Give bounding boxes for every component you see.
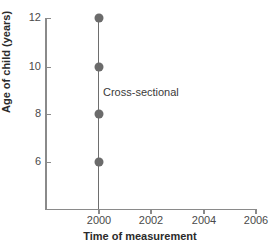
x-axis-tick-label-2004: 2004 (192, 215, 216, 226)
data-point-age-10 (94, 63, 103, 72)
x-axis-tick-label-2006: 2006 (244, 215, 268, 226)
y-axis-tick-label-6: 6 (35, 156, 41, 167)
data-point-age-6 (94, 158, 103, 167)
data-point-age-8 (94, 110, 103, 119)
y-axis-tick-label-8: 8 (35, 108, 41, 119)
annotation-cross-sectional: Cross-sectional (103, 86, 179, 98)
y-axis-tick-label-10: 10 (29, 61, 41, 72)
y-axis-tick-8 (46, 114, 51, 116)
y-axis-title: Age of child (years) (0, 11, 12, 113)
data-point-age-12 (94, 14, 103, 23)
y-axis-tick-label-12: 12 (29, 12, 41, 23)
x-axis-tick-label-2000: 2000 (87, 215, 111, 226)
x-axis-title: Time of measurement (0, 230, 280, 242)
y-axis-tick-12 (46, 18, 51, 20)
y-axis-tick-6 (46, 162, 51, 164)
y-axis-tick-10 (46, 67, 51, 69)
x-axis-tick-label-2002: 2002 (139, 215, 163, 226)
chart-figure: 12 10 8 6 2000 2002 2004 2006 Cross-sect… (0, 0, 280, 246)
